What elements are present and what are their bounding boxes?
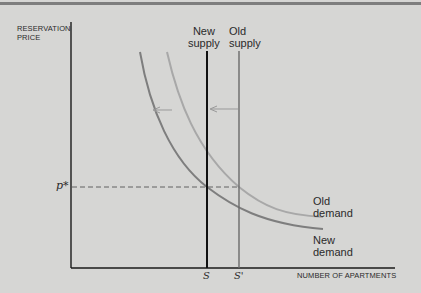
old-supply-label-line1: Old — [229, 25, 261, 37]
new-demand-curve — [140, 52, 323, 229]
old-supply-label-line2: supply — [229, 37, 261, 49]
new-demand-label-line2: demand — [313, 246, 353, 258]
new-demand-label: New demand — [313, 234, 353, 258]
s-prime-tick-label: S' — [234, 270, 244, 281]
old-demand-label-line1: Old — [313, 195, 353, 207]
p-star-label: p* — [56, 179, 69, 192]
y-axis-label-line2: PRICE — [17, 33, 71, 42]
new-demand-label-line1: New — [313, 234, 353, 246]
new-supply-label-line1: New — [188, 25, 220, 37]
supply-shift-arrow-icon — [210, 106, 238, 112]
y-axis-label-line1: RESERVATION — [17, 24, 71, 33]
new-supply-label-line2: supply — [188, 37, 220, 49]
old-supply-label: Old supply — [229, 25, 261, 49]
old-demand-label: Old demand — [313, 195, 353, 219]
new-supply-label: New supply — [188, 25, 220, 49]
old-demand-curve — [167, 52, 323, 217]
x-axis-label: NUMBER OF APARTMENTS — [297, 271, 396, 280]
s-tick-label: S — [203, 270, 210, 281]
old-demand-label-line2: demand — [313, 207, 353, 219]
y-axis-label: RESERVATION PRICE — [17, 24, 71, 42]
